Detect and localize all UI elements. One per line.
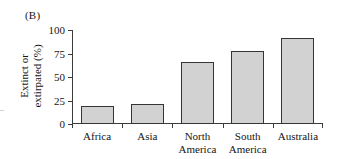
bar-north-america (181, 62, 214, 124)
x-axis-tick-label: SouthAmerica (229, 130, 267, 155)
x-axis-tick-label: Australia (278, 130, 318, 143)
x-axis-tick-label: Asia (137, 130, 157, 143)
figure-panel-b: (B) Extinct or extirpated (%) 0255075100… (0, 0, 340, 159)
x-axis-tick-label-line: South (229, 130, 267, 143)
y-axis-tick-label: 75 (54, 48, 65, 60)
x-axis-tick-label-line: Africa (83, 130, 111, 143)
x-axis-tick-label-line: America (229, 143, 267, 156)
x-axis-tick-label-line: North (179, 130, 217, 143)
y-axis-label-line-2: extirpated (%) (31, 44, 44, 107)
y-axis-label-line-1: Extinct or (18, 44, 31, 107)
y-axis-tick (68, 101, 73, 102)
y-axis-tick-label: 100 (49, 24, 66, 36)
y-axis-tick-label: 0 (60, 118, 66, 130)
bar-south-america (231, 51, 264, 124)
x-axis-tick (273, 123, 274, 128)
y-axis-label: Extinct or extirpated (%) (14, 28, 48, 124)
bar-australia (281, 38, 314, 124)
x-axis-tick (72, 123, 73, 128)
x-axis-tick-label-line: Australia (278, 130, 318, 143)
y-axis-tick (68, 54, 73, 55)
x-axis-tick-label-line: America (179, 143, 217, 156)
x-axis-tick (223, 123, 224, 128)
x-axis-tick-label-line: Asia (137, 130, 157, 143)
y-axis-tick-label: 50 (54, 71, 65, 83)
x-axis-tick-label: NorthAmerica (179, 130, 217, 155)
bar-asia (131, 104, 164, 124)
x-axis-tick (122, 123, 123, 128)
y-axis-tick-label: 25 (54, 95, 65, 107)
panel-label: (B) (25, 9, 40, 21)
x-axis-tick (172, 123, 173, 128)
y-axis-tick (68, 30, 73, 31)
page-edge-artifact (0, 110, 4, 111)
bar-africa (81, 106, 114, 124)
x-axis-tick (322, 123, 323, 128)
y-axis-tick (68, 77, 73, 78)
x-axis-tick-label: Africa (83, 130, 111, 143)
plot-area: 0255075100AfricaAsiaNorthAmericaSouthAme… (72, 30, 323, 124)
